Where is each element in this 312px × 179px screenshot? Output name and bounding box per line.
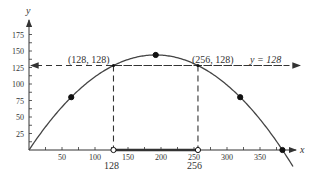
x-tick-label: 300 xyxy=(221,153,233,162)
intersection-point xyxy=(112,64,115,67)
x-axis-label: x xyxy=(299,144,305,155)
data-point xyxy=(111,147,116,152)
y-tick-label: 75 xyxy=(16,97,24,106)
x-mark-right-label: 256 xyxy=(187,160,202,171)
axes xyxy=(29,20,296,150)
x-tick-label: 100 xyxy=(89,153,101,162)
y-tick-label: 150 xyxy=(12,47,24,56)
x-tick-label: 200 xyxy=(155,153,167,162)
x-tick-label: 50 xyxy=(58,153,66,162)
data-point xyxy=(69,95,74,100)
data-point xyxy=(280,147,285,152)
y-tick-label: 100 xyxy=(12,80,24,89)
data-point xyxy=(153,52,158,57)
y-axis-label: y xyxy=(25,5,31,16)
y-tick-label: 50 xyxy=(16,113,24,122)
x-mark-left-label: 128 xyxy=(104,160,119,171)
point-label-left: (128, 128) xyxy=(68,54,110,66)
data-points xyxy=(69,52,285,152)
y-tick-label: 175 xyxy=(12,31,24,40)
x-tick-label: 150 xyxy=(122,153,134,162)
point-label-right: (256, 128) xyxy=(192,54,234,66)
line-label: y = 128 xyxy=(249,54,281,65)
y-tick-label: 125 xyxy=(12,64,24,73)
dashed-guides xyxy=(31,66,300,150)
data-point xyxy=(195,147,200,152)
parabola-chart: 50100150200250300350255075100125150175 y… xyxy=(0,0,312,179)
y-tick-label: 25 xyxy=(16,130,24,139)
data-point xyxy=(238,95,243,100)
x-tick-label: 350 xyxy=(254,153,266,162)
